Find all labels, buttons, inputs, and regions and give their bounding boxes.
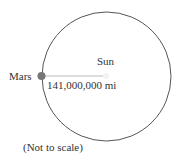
not-to-scale-note: (Not to scale) — [23, 141, 83, 154]
diagram-canvas: Sun Mars 141,000,000 mi (Not to scale) — [0, 0, 181, 163]
mars-orbit-diagram: Sun Mars 141,000,000 mi (Not to scale) — [0, 0, 181, 163]
sun-label: Sun — [97, 55, 115, 67]
mars-planet — [38, 72, 46, 80]
mars-label: Mars — [9, 70, 32, 82]
distance-label: 141,000,000 mi — [47, 79, 116, 91]
